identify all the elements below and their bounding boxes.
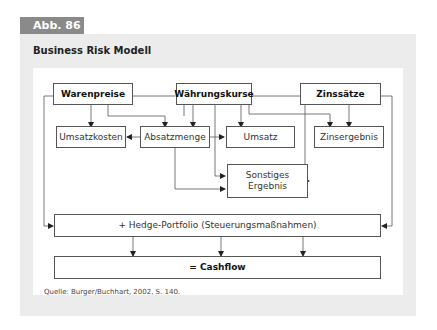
node-umsatz: Umsatz — [226, 126, 295, 148]
node-warenpreise: Warenpreise — [53, 83, 133, 105]
connector-lines — [0, 0, 437, 330]
source-caption: Quelle: Burger/Buchhart, 2002, S. 140. — [44, 288, 180, 296]
node-sonstiges-ergebnis: Sonstiges Ergebnis — [227, 164, 308, 198]
node-zinsergebnis: Zinsergebnis — [314, 126, 384, 148]
node-cashflow: = Cashflow — [54, 256, 381, 279]
node-waehrungskurse: Währungskurse — [176, 83, 252, 105]
node-absatzmenge: Absatzmenge — [140, 126, 210, 148]
node-umsatzkosten: Umsatzkosten — [56, 126, 126, 148]
node-hedge-portfolio: + Hedge-Portfolio (Steuerungsmaßnahmen) — [54, 214, 381, 237]
node-zinssaetze: Zinssätze — [300, 83, 381, 105]
